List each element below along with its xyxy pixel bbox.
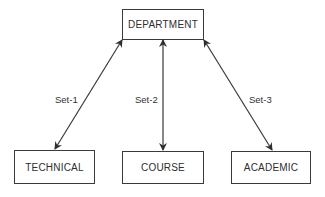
node-academic-label: ACADEMIC [244, 162, 298, 173]
diagram-canvas: DEPARTMENT TECHNICAL COURSE ACADEMIC Set… [0, 0, 325, 197]
node-technical-label: TECHNICAL [25, 162, 83, 173]
node-course-label: COURSE [141, 162, 185, 173]
edge-label-set-2: Set-2 [135, 94, 158, 105]
node-course: COURSE [122, 151, 204, 184]
node-department: DEPARTMENT [122, 9, 204, 40]
node-department-label: DEPARTMENT [128, 19, 198, 30]
node-technical: TECHNICAL [14, 150, 95, 184]
edge-label-set-3: Set-3 [249, 94, 272, 105]
edge-label-set-1: Set-1 [55, 94, 78, 105]
node-academic: ACADEMIC [231, 151, 311, 184]
